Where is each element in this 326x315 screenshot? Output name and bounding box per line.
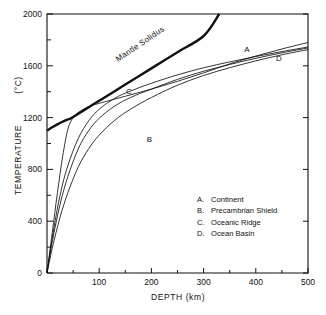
legend-key: D. (197, 229, 205, 238)
x-tick-label: 100 (92, 277, 106, 287)
y-tick-label: 800 (28, 164, 42, 174)
x-axis-title: DEPTH (km) (151, 292, 205, 302)
curve-label-d: D (276, 54, 282, 63)
legend-label: Ocean Basin (211, 229, 254, 238)
x-tick-label: 300 (197, 277, 211, 287)
y-tick-label: 0 (37, 268, 42, 278)
legend-key: C. (197, 218, 205, 227)
solidus-path (47, 14, 219, 131)
y-tick-label: 1600 (23, 61, 42, 71)
y-tick-label: 400 (28, 216, 42, 226)
geotherm-figure: 0400800120016002000 100200300400500 DEPT… (0, 0, 326, 315)
mantle-solidus-label: Mantle Solidus (114, 24, 166, 63)
geotherm-path-c (47, 42, 308, 273)
mantle-solidus-curve (47, 14, 219, 131)
legend-key: A. (197, 195, 204, 204)
chart-canvas: 0400800120016002000 100200300400500 DEPT… (0, 0, 326, 315)
y-tick-label: 2000 (23, 9, 42, 19)
curve-label-c: C (126, 87, 132, 96)
y-axis-tick-labels: 0400800120016002000 (23, 9, 42, 278)
x-tick-label: 400 (249, 277, 263, 287)
legend: A.ContinentB.Precambrian ShieldC.Oceanic… (197, 195, 277, 238)
legend-key: B. (197, 206, 204, 215)
legend-label: Oceanic Ridge (211, 218, 261, 227)
y-axis-title-group: TEMPERATURE (°C) (13, 76, 23, 195)
curve-label-a: A (244, 45, 250, 54)
x-axis-tick-labels: 100200300400500 (92, 277, 315, 287)
y-tick-label: 1200 (23, 113, 42, 123)
curve-label-b: B (147, 135, 152, 144)
x-axis-ticks (47, 268, 308, 273)
y-axis-unit-label: (°C) (13, 76, 23, 94)
legend-label: Precambrian Shield (211, 206, 277, 215)
x-tick-label: 200 (144, 277, 158, 287)
x-tick-label: 500 (301, 277, 315, 287)
geotherm-path-b (47, 50, 308, 273)
geotherm-curves (47, 42, 308, 273)
y-axis-title: TEMPERATURE (13, 125, 23, 195)
legend-label: Continent (211, 195, 244, 204)
